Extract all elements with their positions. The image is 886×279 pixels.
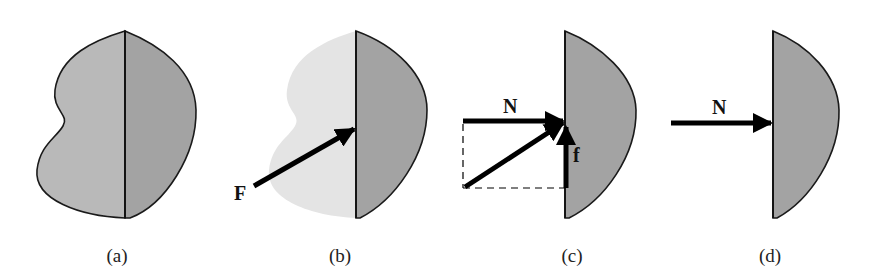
free-body-diagram-figure: (a) F (b) N f (c) N (d): [0, 0, 886, 279]
panel-d: N (d): [671, 31, 839, 267]
right-half-shape: [773, 31, 839, 218]
panel-c: N f (c): [463, 31, 636, 267]
faded-left-shape: [269, 31, 356, 218]
force-label-F: F: [234, 182, 246, 204]
resultant-force-arrow: [465, 123, 563, 187]
right-half-shape: [356, 31, 427, 218]
right-half-shape: [565, 31, 636, 218]
caption-a: (a): [106, 245, 127, 267]
normal-label-N: N: [503, 95, 518, 117]
friction-label-f: f: [573, 144, 580, 166]
panel-a: (a): [37, 31, 196, 267]
panel-b: F (b): [234, 31, 427, 267]
right-half-shape: [125, 31, 196, 218]
caption-d: (d): [759, 245, 781, 267]
normal-label-N: N: [712, 96, 727, 118]
caption-c: (c): [561, 245, 582, 267]
left-half-shape: [37, 31, 125, 218]
caption-b: (b): [329, 245, 351, 267]
